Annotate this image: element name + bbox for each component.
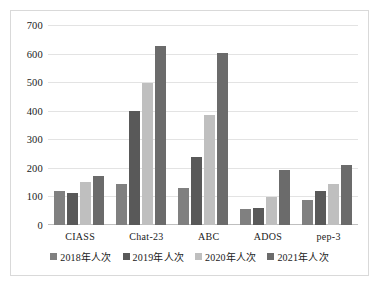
legend-entry[interactable]: 2020年人次 bbox=[195, 249, 256, 264]
category-label-pep-3: pep-3 bbox=[317, 231, 341, 242]
legend-label: 2018年人次 bbox=[60, 249, 111, 264]
legend-entry[interactable]: 2019年人次 bbox=[123, 249, 184, 264]
category-label-chat-23: Chat-23 bbox=[129, 231, 163, 242]
bar bbox=[341, 165, 352, 225]
x-axis-category-labels: CIASSChat-23ABCADOSpep-3 bbox=[48, 227, 358, 245]
bar bbox=[315, 191, 326, 225]
legend-swatch-icon bbox=[123, 253, 130, 260]
y-tick-label: 200 bbox=[27, 162, 43, 173]
bar-group-pep-3 bbox=[302, 25, 352, 225]
y-tick-label: 100 bbox=[27, 191, 43, 202]
legend-swatch-icon bbox=[195, 253, 202, 260]
bar bbox=[54, 191, 65, 225]
bar bbox=[67, 193, 78, 225]
y-tick-label: 500 bbox=[27, 77, 43, 88]
bar-group-chat-23 bbox=[116, 25, 166, 225]
bar bbox=[155, 46, 166, 225]
chart-legend: 2018年人次2019年人次2020年人次2021年人次 bbox=[11, 249, 368, 264]
y-tick-label: 0 bbox=[38, 220, 43, 231]
legend-swatch-icon bbox=[267, 253, 274, 260]
chart-frame: 7006005004003002001000 CIASSChat-23ABCAD… bbox=[10, 10, 369, 276]
bar bbox=[266, 197, 277, 225]
bar bbox=[204, 115, 215, 225]
bar bbox=[80, 182, 91, 225]
bar-group-ados bbox=[240, 25, 290, 225]
y-tick-label: 400 bbox=[27, 105, 43, 116]
category-label-ciass: CIASS bbox=[65, 231, 95, 242]
legend-label: 2021年人次 bbox=[277, 249, 328, 264]
bar bbox=[116, 184, 127, 225]
bar bbox=[142, 83, 153, 225]
legend-swatch-icon bbox=[50, 253, 57, 260]
legend-label: 2020年人次 bbox=[205, 249, 256, 264]
bar bbox=[302, 200, 313, 225]
legend-entry[interactable]: 2018年人次 bbox=[50, 249, 111, 264]
bar bbox=[191, 157, 202, 225]
category-label-abc: ABC bbox=[198, 231, 219, 242]
y-tick-label: 600 bbox=[27, 48, 43, 59]
y-tick-label: 300 bbox=[27, 134, 43, 145]
bar bbox=[240, 209, 251, 225]
y-tick-label: 700 bbox=[27, 20, 43, 31]
bar bbox=[129, 111, 140, 225]
bar bbox=[328, 184, 339, 225]
bar bbox=[279, 170, 290, 225]
bar bbox=[253, 208, 264, 225]
bar bbox=[93, 176, 104, 225]
bar bbox=[178, 188, 189, 225]
plot-area: 7006005004003002001000 bbox=[48, 25, 358, 225]
category-label-ados: ADOS bbox=[254, 231, 282, 242]
bar bbox=[217, 53, 228, 225]
bar-group-abc bbox=[178, 25, 228, 225]
bar-group-ciass bbox=[54, 25, 104, 225]
legend-label: 2019年人次 bbox=[133, 249, 184, 264]
legend-entry[interactable]: 2021年人次 bbox=[267, 249, 328, 264]
bars-layer bbox=[48, 25, 358, 225]
